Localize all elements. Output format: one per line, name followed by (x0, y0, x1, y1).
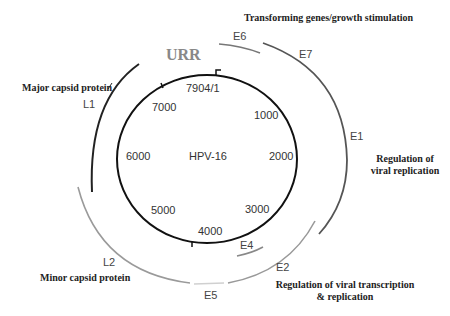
label-position-6000: 6000 (126, 151, 150, 162)
label-E4: E4 (240, 240, 253, 251)
gene-arc-E2 (228, 221, 315, 283)
label-position-2000: 2000 (269, 151, 293, 162)
label-transcription-line1: Regulation of viral transcription (270, 279, 420, 291)
label-minor-capsid: Minor capsid protein (40, 273, 130, 283)
label-viral-replication-line1: Regulation of (360, 153, 450, 165)
label-E1: E1 (350, 131, 363, 142)
label-position-4000: 4000 (198, 226, 222, 237)
gene-arc-E5 (194, 283, 224, 284)
label-major-capsid: Major capsid protein (22, 83, 112, 93)
label-urr: URR (166, 47, 201, 63)
label-transforming-genes: Transforming genes/growth stimulation (244, 13, 413, 23)
label-E7: E7 (299, 49, 312, 60)
label-viral-replication-line2: viral replication (360, 165, 450, 177)
label-position-5000: 5000 (151, 205, 175, 216)
label-E5: E5 (204, 290, 217, 301)
label-E2: E2 (276, 262, 289, 273)
label-L2: L2 (103, 257, 115, 268)
gene-arc-E7-E1 (263, 43, 347, 234)
label-position-7904-1: 7904/1 (186, 83, 220, 94)
gene-arc-L2 (78, 187, 190, 283)
label-viral-replication: Regulation of viral replication (360, 153, 450, 177)
label-E6: E6 (233, 31, 246, 42)
label-position-3000: 3000 (245, 204, 269, 215)
label-position-7000: 7000 (152, 102, 176, 113)
label-transcription-replication: Regulation of viral transcription & repl… (270, 279, 420, 303)
label-L1: L1 (83, 99, 95, 110)
label-genome-name: HPV-16 (189, 151, 227, 162)
label-position-1000: 1000 (254, 110, 278, 121)
gene-arc-E6 (219, 44, 260, 53)
label-transcription-line2: & replication (270, 291, 420, 303)
